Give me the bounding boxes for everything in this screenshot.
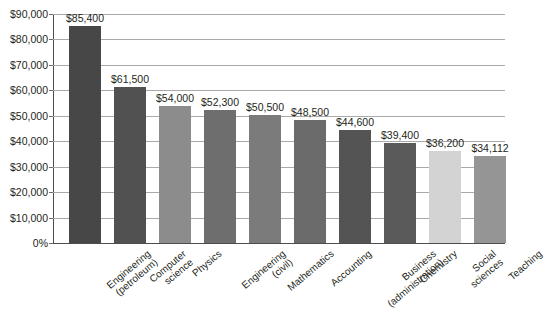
y-axis-tick-label: 0% <box>0 238 48 249</box>
x-axis-category-label: Socialsciences <box>461 248 505 290</box>
bar-value-label: $44,600 <box>336 117 374 128</box>
bar-value-label: $52,300 <box>201 97 239 108</box>
category-label-line: Teaching <box>506 248 544 282</box>
x-axis-category-label: Engineering(civil) <box>239 248 294 299</box>
bar-value-label: $34,112 <box>471 143 508 154</box>
bar: $54,000 <box>159 106 191 243</box>
bar: $50,500 <box>249 115 281 243</box>
bar: $85,400 <box>69 26 101 243</box>
y-axis-tick-label: $60,000 <box>0 85 48 96</box>
bar-value-label: $36,200 <box>426 138 464 149</box>
bar-value-label: $39,400 <box>381 130 419 141</box>
category-label-line: Physics <box>190 248 223 279</box>
bar: $48,500 <box>294 120 326 243</box>
bar-value-label: $61,500 <box>111 74 149 85</box>
bar: $61,500 <box>114 87 146 243</box>
category-label-line: Mathematics <box>285 248 335 293</box>
bar: $34,112 <box>474 156 506 243</box>
x-axis-category-label: Mathematics <box>285 248 335 293</box>
x-axis-category-label: Computerscience <box>147 248 195 293</box>
y-axis-tick-label: $40,000 <box>0 136 48 147</box>
y-axis-tick-label: $10,000 <box>0 212 48 223</box>
bar: $52,300 <box>204 110 236 243</box>
y-axis-tick-label: $90,000 <box>0 9 48 20</box>
bar-value-label: $50,500 <box>246 102 284 113</box>
y-axis-tick-label: $20,000 <box>0 187 48 198</box>
bars-container: $85,400$61,500$54,000$52,300$50,500$48,5… <box>53 14 505 243</box>
x-axis-category-labels: Engineering(petroleum)ComputersciencePhy… <box>53 244 505 309</box>
category-label-line: Accounting <box>329 248 374 288</box>
x-axis-category-label: Accounting <box>329 248 374 288</box>
x-axis-category-label: Business(administration) <box>378 248 445 309</box>
y-axis-tick-label: $50,000 <box>0 110 48 121</box>
bar: $36,200 <box>429 151 461 243</box>
x-axis-category-label: Teaching <box>506 248 544 282</box>
y-axis-tick-label: $30,000 <box>0 161 48 172</box>
bar: $39,400 <box>384 143 416 243</box>
x-axis-category-label: Physics <box>190 248 223 279</box>
bar: $44,600 <box>339 130 371 243</box>
y-axis-tick-label: $70,000 <box>0 59 48 70</box>
bar-value-label: $85,400 <box>66 13 104 24</box>
y-axis-tick-label: $80,000 <box>0 34 48 45</box>
bar-value-label: $48,500 <box>291 107 329 118</box>
bar-value-label: $54,000 <box>156 93 194 104</box>
